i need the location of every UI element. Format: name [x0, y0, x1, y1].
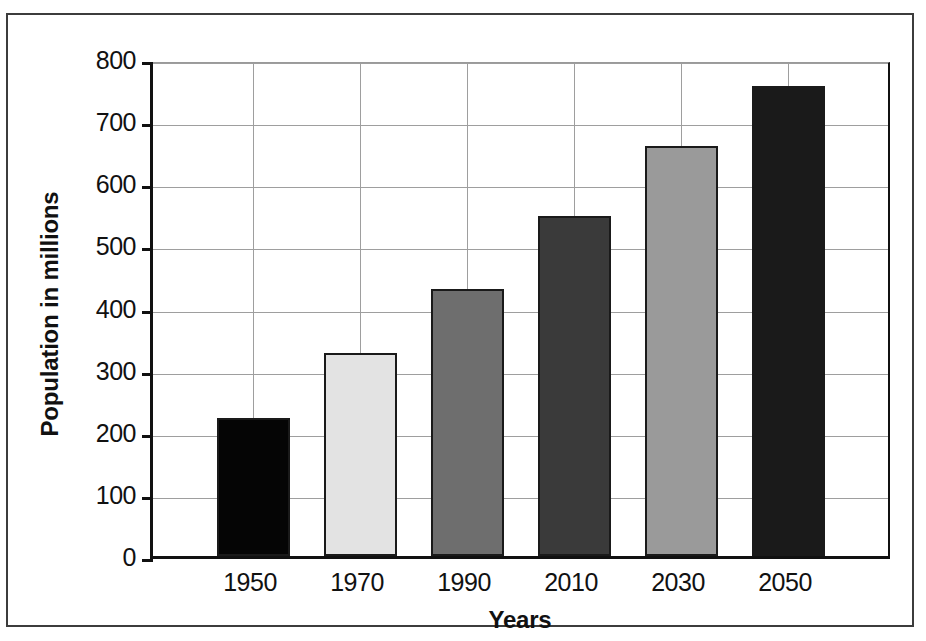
y-axis-tick-mark	[142, 373, 153, 376]
y-axis-tick-label: 500	[96, 232, 136, 261]
y-axis-tick-label: 600	[96, 170, 136, 199]
y-axis-tick-label: 0	[123, 543, 136, 572]
bar-2050	[752, 86, 825, 556]
y-axis-tick-label: 200	[96, 419, 136, 448]
bar-2010	[538, 216, 611, 556]
x-axis-title: Years	[150, 606, 890, 634]
y-axis-tick-mark	[142, 186, 153, 189]
x-axis-tick-label: 1990	[409, 568, 519, 597]
x-axis-tick-label: 2030	[623, 568, 733, 597]
y-axis-tick-mark	[142, 62, 153, 65]
bar-1950	[217, 418, 290, 556]
plot-area	[150, 62, 890, 559]
x-axis-tick-label: 2010	[516, 568, 626, 597]
y-axis-tick-label: 100	[96, 481, 136, 510]
y-axis-tick-label: 300	[96, 357, 136, 386]
chart-page: Population in millions 80070060050040030…	[0, 0, 926, 641]
y-axis-tick-mark	[142, 311, 153, 314]
gridline-horizontal	[153, 63, 888, 64]
y-axis-tick-mark	[142, 248, 153, 251]
bar-2030	[645, 146, 718, 556]
y-axis-tick-label: 700	[96, 108, 136, 137]
y-axis-tick-mark	[142, 435, 153, 438]
bar-1970	[324, 353, 397, 556]
x-axis-tick-label: 2050	[730, 568, 840, 597]
y-axis-tick-label: 800	[96, 46, 136, 75]
bar-chart: Population in millions 80070060050040030…	[0, 0, 926, 641]
y-axis-tick-mark	[142, 497, 153, 500]
y-axis-tick-mark	[142, 559, 153, 562]
y-axis-tick-mark	[142, 124, 153, 127]
x-axis-tick-label: 1950	[195, 568, 305, 597]
y-axis-tick-labels: 8007006005004003002001000	[48, 62, 136, 559]
bar-1990	[431, 289, 504, 556]
y-axis-tick-label: 400	[96, 295, 136, 324]
x-axis-tick-labels: 195019701990201020302050	[150, 568, 890, 602]
x-axis-tick-label: 1970	[302, 568, 412, 597]
